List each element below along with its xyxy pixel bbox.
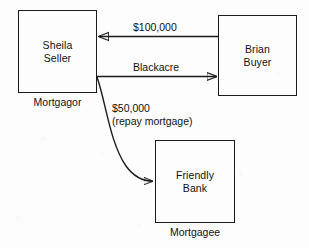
node-seller[interactable]: Sheila Seller <box>18 10 97 93</box>
diagram-canvas: Sheila Seller Mortgagor Brian Buyer Frie… <box>0 0 309 248</box>
edge-repayment-label: $50,000 (repay mortgage) <box>112 102 193 128</box>
node-bank-caption: Mortgagee <box>155 226 235 238</box>
edge-deed-label: Blackacre <box>133 61 179 74</box>
node-buyer-label: Brian Buyer <box>244 43 272 68</box>
edge-payment-label: $100,000 <box>133 21 177 34</box>
node-bank[interactable]: Friendly Bank <box>155 140 235 223</box>
edge-repayment-curve <box>97 77 153 181</box>
node-buyer[interactable]: Brian Buyer <box>218 15 297 96</box>
node-seller-label: Sheila Seller <box>43 39 73 64</box>
node-bank-label: Friendly Bank <box>176 169 214 194</box>
node-seller-caption: Mortgagor <box>18 96 97 108</box>
